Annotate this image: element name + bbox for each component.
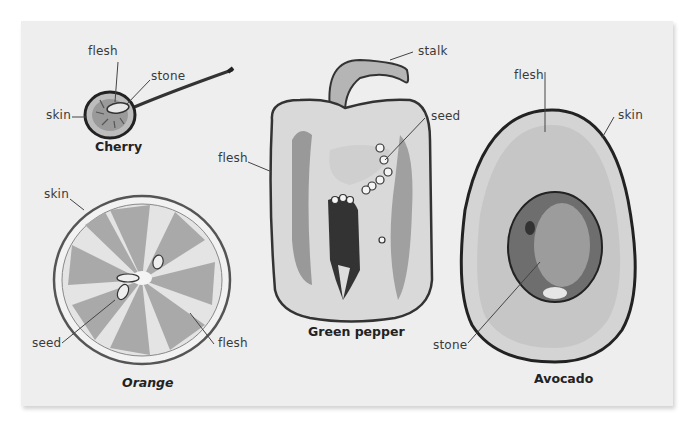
orange-flesh-label: flesh xyxy=(218,336,248,350)
cherry-skin-label: skin xyxy=(46,108,71,122)
avocado-stone-label: stone xyxy=(433,338,467,352)
cherry-flesh-label: flesh xyxy=(88,44,118,58)
orange-title: Orange xyxy=(122,375,174,390)
fruit-illustrations xyxy=(0,0,697,431)
avocado-flesh-label: flesh xyxy=(514,68,544,82)
pepper-seed-label: seed xyxy=(431,109,460,123)
pepper-flesh-label: flesh xyxy=(218,151,248,165)
orange-skin-label: skin xyxy=(44,187,69,201)
pepper-stalk-label: stalk xyxy=(418,44,448,58)
orange-seed-label: seed xyxy=(32,336,61,350)
avocado-illustration xyxy=(461,72,635,362)
avocado-title: Avocado xyxy=(534,371,593,386)
cherry-title: Cherry xyxy=(95,139,142,154)
pepper-title: Green pepper xyxy=(308,324,405,339)
orange-illustration xyxy=(54,196,230,364)
green-pepper-illustration xyxy=(248,52,432,322)
cherry-stone-label: stone xyxy=(151,69,185,83)
avocado-skin-label: skin xyxy=(618,108,643,122)
